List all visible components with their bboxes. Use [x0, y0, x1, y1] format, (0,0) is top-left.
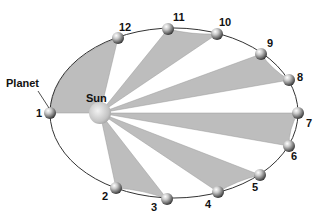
position-label-12: 12: [119, 21, 131, 33]
planet-leader-line: [38, 91, 49, 108]
position-label-6: 6: [291, 150, 297, 162]
planet-icon-5: [254, 169, 266, 181]
planet-label: Planet: [6, 77, 39, 89]
planet-icon-4: [212, 186, 224, 198]
position-label-8: 8: [297, 71, 303, 83]
planet-icon-11: [162, 23, 174, 35]
planet-icon-7: [292, 107, 304, 119]
planet-icon-3: [161, 193, 173, 205]
planet-icon-2: [110, 182, 122, 194]
position-label-3: 3: [151, 201, 157, 213]
sun-label: Sun: [86, 92, 107, 104]
planet-icon-1: [44, 107, 56, 119]
position-label-7: 7: [306, 117, 312, 129]
planet-icon-12: [112, 32, 124, 44]
position-label-11: 11: [173, 11, 185, 23]
position-label-1: 1: [36, 107, 42, 119]
planet-icon-8: [283, 74, 295, 86]
kepler-second-law-diagram: 123456789101112 Planet Sun: [0, 0, 332, 222]
sun-icon: [89, 102, 111, 124]
position-label-4: 4: [205, 198, 212, 210]
position-label-5: 5: [252, 181, 258, 193]
position-label-2: 2: [102, 190, 108, 202]
planet-icon-9: [255, 48, 267, 60]
swept-sector-12-1: [50, 38, 118, 113]
position-label-10: 10: [219, 16, 231, 28]
position-label-9: 9: [267, 37, 273, 49]
diagram-canvas: 123456789101112 Planet Sun: [0, 0, 332, 222]
planet-icon-10: [211, 28, 223, 40]
